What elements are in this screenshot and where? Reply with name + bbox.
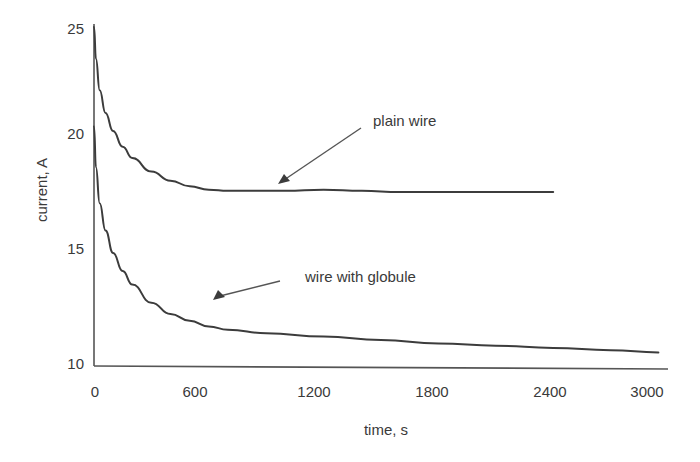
y-tick-label: 15 xyxy=(67,240,84,257)
wire-with-globule-arrow xyxy=(220,281,280,296)
y-tick-label: 20 xyxy=(67,125,84,142)
x-tick-label: 2400 xyxy=(533,383,566,400)
x-tick-label: 3000 xyxy=(630,383,663,400)
wire-with-globule-curve xyxy=(94,126,658,352)
line-chart: 25 20 15 10 0 600 1200 1800 2400 3000 ti… xyxy=(0,0,700,462)
plain-wire-curve xyxy=(94,27,553,192)
x-axis-title: time, s xyxy=(364,421,408,438)
y-tick-label: 10 xyxy=(67,355,84,372)
plain-wire-arrow xyxy=(284,128,361,180)
arrow-head-icon xyxy=(278,174,290,184)
y-axis-title: current, A xyxy=(33,158,50,222)
y-tick-label: 25 xyxy=(67,20,84,37)
x-tick-label: 600 xyxy=(182,383,207,400)
plain-wire-label: plain wire xyxy=(373,112,436,129)
x-tick-label: 1200 xyxy=(297,383,330,400)
wire-with-globule-label: wire with globule xyxy=(304,268,416,285)
x-tick-label: 0 xyxy=(91,383,99,400)
x-tick-label: 1800 xyxy=(415,383,448,400)
x-axis xyxy=(94,366,668,369)
